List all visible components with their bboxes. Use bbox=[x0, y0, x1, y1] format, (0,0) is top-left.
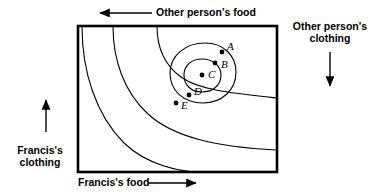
bottom-axis-label: Francis's food bbox=[78, 176, 149, 188]
point-a-dot bbox=[220, 50, 225, 55]
point-b-label: B bbox=[221, 58, 228, 70]
point-c-label: C bbox=[208, 68, 216, 80]
top-axis-label: Other person's food bbox=[156, 6, 256, 18]
point-e-dot bbox=[174, 101, 179, 106]
point-d-label: D bbox=[193, 85, 202, 97]
left-axis-label-line1: Francis's bbox=[17, 144, 63, 156]
point-c-dot bbox=[200, 73, 205, 78]
point-a-label: A bbox=[226, 40, 234, 52]
right-axis-label-line1: Other person's bbox=[293, 20, 367, 32]
left-axis-label-line2: clothing bbox=[20, 156, 61, 168]
plot-area-background bbox=[78, 26, 277, 172]
point-e-label: E bbox=[180, 99, 188, 111]
point-d-dot bbox=[187, 93, 192, 98]
indifference-curve-figure: A B C D E Other person's food Other pers… bbox=[0, 0, 382, 192]
figure-canvas: A B C D E Other person's food Other pers… bbox=[0, 0, 382, 192]
right-axis-label-line2: clothing bbox=[310, 32, 351, 44]
point-b-dot bbox=[213, 61, 218, 66]
